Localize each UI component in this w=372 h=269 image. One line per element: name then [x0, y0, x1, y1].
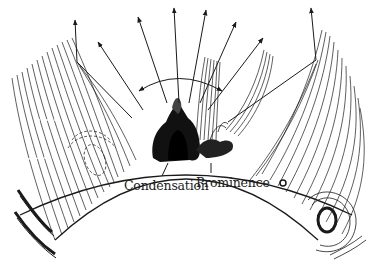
radial-arrows	[75, 8, 316, 122]
arrow-8	[311, 8, 316, 60]
right-streamer	[226, 30, 364, 234]
left-edge-bands	[15, 190, 56, 258]
condensation-pointer	[162, 163, 168, 176]
prominence-label: Prominence	[196, 175, 270, 190]
condensation	[152, 98, 200, 162]
solar-corona-diagram	[0, 0, 372, 269]
arrow-3	[138, 17, 167, 103]
arrow-5	[189, 10, 206, 103]
arrow-1	[75, 20, 77, 62]
arrow-4	[174, 8, 179, 103]
arrow-2	[98, 42, 143, 110]
